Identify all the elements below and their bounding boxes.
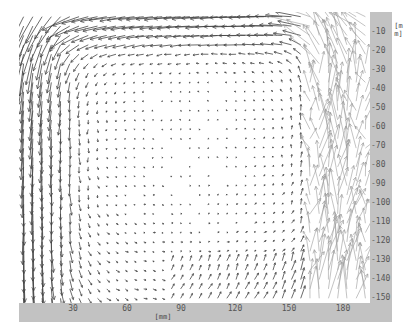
arrow-head-icon xyxy=(217,157,218,158)
arrow-head-icon xyxy=(143,148,144,149)
vector-arrow xyxy=(290,36,310,54)
arrow-head-icon xyxy=(245,110,246,111)
arrow-head-icon xyxy=(143,176,144,177)
arrow-head-icon xyxy=(235,157,236,158)
y-tick-label: 30 xyxy=(371,66,385,74)
arrow-head-icon xyxy=(208,204,209,205)
vector-arrow xyxy=(356,95,363,120)
arrow-head-icon xyxy=(134,157,135,158)
y-tick-label: 110 xyxy=(371,218,390,226)
vector-arrow xyxy=(340,226,347,252)
vector-arrow xyxy=(361,270,365,298)
vector-arrow xyxy=(310,228,316,251)
vector-arrow xyxy=(70,214,71,224)
arrow-head-icon xyxy=(254,241,255,242)
vector-arrow xyxy=(227,292,231,299)
vector-arrow xyxy=(74,64,79,72)
arrow-head-icon xyxy=(153,166,154,167)
vector-arrow xyxy=(322,19,337,54)
vector-arrow xyxy=(356,56,359,82)
arrow-head-icon xyxy=(125,138,126,139)
arrow-head-icon xyxy=(125,214,126,215)
arrow-head-icon xyxy=(226,166,227,167)
arrow-head-icon xyxy=(125,167,126,168)
vector-arrow xyxy=(208,284,212,289)
vector-arrow xyxy=(319,51,324,73)
vector-arrow xyxy=(302,113,310,129)
arrow-head-icon xyxy=(226,194,227,195)
vector-arrow xyxy=(306,194,310,205)
y-tick-label: 140 xyxy=(371,275,390,283)
arrow-head-icon xyxy=(189,185,190,186)
y-tick-label: 20 xyxy=(371,47,385,55)
arrow-head-icon xyxy=(198,185,199,186)
arrow-head-icon xyxy=(189,223,190,224)
vector-arrow xyxy=(28,26,42,52)
vector-arrow xyxy=(347,177,356,204)
arrow-head-icon xyxy=(189,129,190,130)
arrow-head-icon xyxy=(217,138,218,139)
y-tick-label: 90 xyxy=(371,180,385,188)
y-tick-label: 130 xyxy=(371,256,390,264)
vector-arrow xyxy=(98,298,102,302)
arrow-head-icon xyxy=(217,119,218,120)
arrow-head-icon xyxy=(254,176,255,177)
arrow-head-icon xyxy=(152,157,153,158)
vector-arrow xyxy=(304,70,310,91)
vector-arrow xyxy=(84,64,89,69)
vector-arrow xyxy=(296,56,300,63)
arrow-head-icon xyxy=(180,204,181,205)
arrow-head-icon xyxy=(245,176,246,177)
arrow-head-icon xyxy=(171,232,172,233)
vector-arrow xyxy=(304,91,310,101)
vector-arrow xyxy=(344,90,356,110)
vector-arrow xyxy=(325,193,328,223)
arrow-head-icon xyxy=(171,129,172,130)
vector-arrow xyxy=(365,44,368,64)
arrow-head-icon xyxy=(208,110,209,111)
y-tick-label: 50 xyxy=(371,104,385,112)
plot-area xyxy=(19,12,370,303)
y-tick-label: 100 xyxy=(371,199,390,207)
arrow-head-icon xyxy=(162,157,163,158)
arrow-head-icon xyxy=(245,138,246,139)
vector-arrow xyxy=(90,54,97,58)
arrow-head-icon xyxy=(226,213,227,214)
arrow-head-icon xyxy=(263,128,264,129)
vector-arrow xyxy=(363,208,365,223)
y-tick-label: 10 xyxy=(371,28,385,36)
arrow-head-icon xyxy=(208,91,209,92)
arrow-head-icon xyxy=(226,110,227,111)
vector-arrow xyxy=(335,218,338,261)
arrow-head-icon xyxy=(236,101,237,102)
vector-arrow xyxy=(329,92,338,129)
vector-field-arrows xyxy=(19,12,370,303)
arrow-head-icon xyxy=(208,157,209,158)
y-tick-label: 70 xyxy=(371,142,385,150)
vector-arrow xyxy=(307,178,310,195)
arrow-head-icon xyxy=(199,148,200,149)
arrow-head-icon xyxy=(143,82,144,83)
vector-arrow xyxy=(350,28,366,45)
vector-arrow xyxy=(310,259,313,280)
arrow-head-icon xyxy=(226,138,227,139)
vector-arrow xyxy=(347,76,350,111)
y-axis-unit-label: [mm] xyxy=(394,22,403,38)
arrow-head-icon xyxy=(245,194,246,195)
arrow-head-icon xyxy=(162,147,163,148)
vector-arrow xyxy=(46,26,60,42)
arrow-head-icon xyxy=(162,166,163,167)
arrow-head-icon xyxy=(125,195,126,196)
vector-arrow xyxy=(356,83,359,101)
arrow-head-icon xyxy=(152,110,153,111)
vector-arrow xyxy=(81,54,88,59)
arrow-head-icon xyxy=(180,223,181,224)
vector-arrow xyxy=(310,118,319,139)
vector-arrow xyxy=(347,39,355,73)
arrow-head-icon xyxy=(208,138,209,139)
arrow-head-icon xyxy=(189,119,190,120)
arrow-head-icon xyxy=(125,176,126,177)
arrow-head-icon xyxy=(134,129,135,130)
arrow-head-icon xyxy=(263,82,264,83)
vector-arrow xyxy=(336,12,347,45)
